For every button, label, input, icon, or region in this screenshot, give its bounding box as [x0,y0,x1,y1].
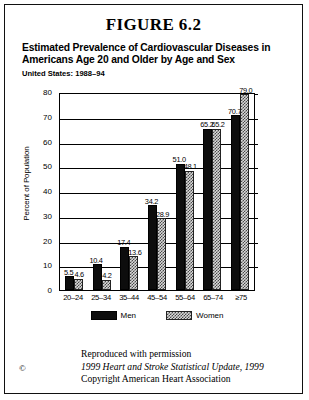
y-tick-label-20: 20 [26,237,52,246]
bar-men-65–74: 65.2 [203,129,212,290]
y-tick-right-10 [254,267,258,268]
bar-groups: 5.54.610.44.217.413.634.228.951.048.165.… [60,94,254,290]
x-tick-label-≥75: ≥75 [227,293,255,302]
legend-item-women: Women [166,311,223,320]
y-tick-label-10: 10 [26,261,52,270]
bar-value-label: 10.4 [89,256,102,265]
y-tick-label-0: 0 [26,286,52,295]
y-tick-right-80 [254,94,258,95]
bar-group: 5.54.6 [60,94,88,290]
bar-women-65–74: 65.2 [212,129,221,290]
y-tick-right-70 [254,119,258,120]
y-tick-right-40 [254,193,258,194]
x-tick-label-35–44: 35–44 [115,293,143,302]
x-tick-label-55–64: 55–64 [171,293,199,302]
x-tick-label-65–74: 65–74 [199,293,227,302]
bar-men-≥75: 70.7 [231,115,240,290]
chart-subtitle: United States: 1988–94 [22,69,284,78]
y-tick-label-50: 50 [26,162,52,171]
chart-plot-wrapper: Percent of Population 01020304050607080 … [5,93,304,315]
y-tick-label-30: 30 [26,212,52,221]
bar-women-35–44: 13.6 [129,256,138,290]
copyright-icon: © [19,363,26,373]
bar-value-label: 4.6 [74,270,83,279]
legend-label-women: Women [196,311,223,320]
legend-item-men: Men [91,311,137,320]
bar-value-label: 17.4 [117,238,130,247]
chart-title: Estimated Prevalence of Cardiovascular D… [22,42,284,67]
bar-group: 34.228.9 [143,94,171,290]
bar-women-45–54: 28.9 [157,218,166,290]
chart-legend: Men Women [59,311,255,320]
plot-area: 5.54.610.44.217.413.634.228.951.048.165.… [59,93,255,291]
bar-men-55–64: 51.0 [176,164,185,290]
y-tick-right-50 [254,168,258,169]
y-tick-right-60 [254,144,258,145]
legend-swatch-women [166,311,192,320]
legend-swatch-men [91,311,117,320]
bar-value-label: 79.0 [239,86,252,95]
credit-copyright: Copyright American Heart Association [81,373,296,386]
y-tick-right-20 [254,243,258,244]
credit-permission: Reproduced with permission [81,348,296,361]
bar-group: 70.779.0 [226,94,254,290]
bar-men-25–34: 10.4 [93,264,102,290]
bar-value-label: 4.2 [102,271,111,280]
y-tick-label-60: 60 [26,138,52,147]
bar-value-label: 34.2 [145,197,158,206]
bar-group: 51.048.1 [171,94,199,290]
bar-women-20–24: 4.6 [74,279,83,290]
bar-group: 65.265.2 [199,94,227,290]
x-tick-label-25–34: 25–34 [87,293,115,302]
x-tick-label-45–54: 45–54 [143,293,171,302]
figure-footer: © Reproduced with permission 1999 Heart … [5,347,304,393]
bar-women-55–64: 48.1 [185,171,194,290]
x-axis-tick-labels: 20–2425–3435–4445–5455–6465–74≥75 [59,293,255,302]
bar-value-label: 5.5 [64,268,73,277]
figure-heading: FIGURE 6.2 [5,15,302,35]
bar-value-label: 48.1 [184,162,197,171]
x-tick-label-20–24: 20–24 [59,293,87,302]
bar-women-≥75: 79.0 [240,94,249,290]
y-tick-right-30 [254,218,258,219]
bar-men-20–24: 5.5 [65,276,74,290]
y-tick-label-70: 70 [26,113,52,122]
legend-label-men: Men [121,311,137,320]
credit-source: 1999 Heart and Stroke Statistical Update… [81,361,296,374]
bar-group: 10.44.2 [88,94,116,290]
credit-block: Reproduced with permission 1999 Heart an… [81,348,296,386]
figure-card: FIGURE 6.2 Estimated Prevalence of Cardi… [4,4,303,394]
y-tick-label-80: 80 [26,88,52,97]
bar-value-label: 28.9 [156,210,169,219]
bar-value-label: 65.2 [211,120,224,129]
bar-group: 17.413.6 [115,94,143,290]
bar-value-label: 13.6 [128,248,141,257]
title-block: Estimated Prevalence of Cardiovascular D… [22,42,284,78]
bar-women-25–34: 4.2 [102,280,111,290]
y-axis-label: Percent of Population [22,114,31,254]
y-tick-label-40: 40 [26,187,52,196]
